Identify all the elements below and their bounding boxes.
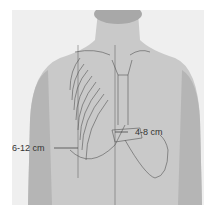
anatomy-illustration — [12, 10, 204, 205]
label-midclavicular-span: 6-12 cm — [12, 143, 45, 153]
label-midline-span: 4-8 cm — [135, 127, 163, 137]
torso-photo: 6-12 cm 4-8 cm — [12, 10, 204, 205]
